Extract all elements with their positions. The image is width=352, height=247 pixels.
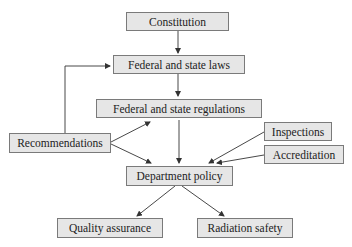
- node-department-policy: Department policy: [126, 166, 233, 186]
- node-quality-assurance: Quality assurance: [57, 218, 163, 238]
- edge-recommendations-regulations: [111, 122, 150, 142]
- edge-policy-radiation: [182, 186, 224, 216]
- node-federal-state-regulations: Federal and state regulations: [96, 99, 262, 118]
- edge-accreditation-policy: [217, 155, 264, 163]
- edge-recommendations-policy: [111, 144, 151, 163]
- diagram-canvas: Constitution Federal and state laws Fede…: [0, 0, 352, 247]
- node-inspections: Inspections: [264, 122, 332, 141]
- node-radiation-safety: Radiation safety: [197, 218, 293, 238]
- edge-policy-quality: [137, 186, 175, 216]
- node-accreditation: Accreditation: [264, 145, 344, 164]
- node-federal-state-laws: Federal and state laws: [113, 55, 245, 74]
- node-constitution: Constitution: [126, 12, 229, 31]
- node-recommendations: Recommendations: [9, 133, 111, 153]
- edge-inspections-policy: [209, 132, 264, 163]
